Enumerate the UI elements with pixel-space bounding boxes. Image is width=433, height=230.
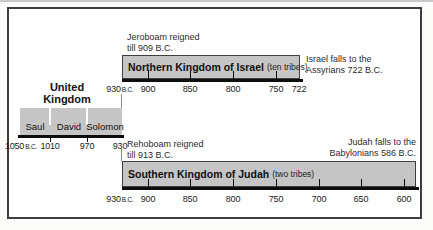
israel-falls-line2: Assyrians 722 B.C. [306, 65, 383, 76]
timeline-figure: Jeroboam reigned till 909 B.C. Northern … [0, 0, 433, 230]
axis-value: 722 [292, 84, 306, 94]
judah-falls-note: Judah falls to the Babylonians 586 B.C. [295, 137, 416, 158]
axis-value: 700 [312, 194, 326, 204]
northern-kingdom-subtitle: (ten tribes) [267, 62, 308, 72]
southern-axis-label-900: 900 [130, 194, 166, 204]
southern-tick-850 [190, 179, 191, 187]
southern-kingdom-title: Southern Kingdom of Judah [128, 168, 269, 180]
southern-axis-line [122, 187, 419, 190]
northern-axis-line [122, 79, 303, 82]
southern-kingdom-bar: Southern Kingdom of Judah (two tribes) [122, 161, 416, 187]
uk-axis-label-970: 970 [69, 141, 105, 151]
southern-axis-label-750: 750 [258, 194, 294, 204]
axis-value: 970 [80, 141, 94, 151]
southern-tick-800 [233, 179, 234, 187]
judah-falls-line2: Babylonians 586 B.C. [295, 148, 416, 159]
northern-axis-label-900: 900 [130, 84, 166, 94]
jeroboam-note-line1: Jeroboam reigned [127, 32, 200, 43]
judah-falls-line1: Judah falls to the [295, 137, 416, 148]
jeroboam-note-line2: till 909 B.C. [127, 43, 200, 54]
southern-axis-label-700: 700 [301, 194, 337, 204]
northern-axis-label-722: 722 [281, 84, 317, 94]
southern-axis-label-600: 600 [386, 194, 422, 204]
united-kingdom-title: United Kingdom [22, 81, 112, 105]
southern-tick-750 [276, 179, 277, 187]
axis-value: 1050 [5, 141, 24, 151]
southern-axis-label-850: 850 [172, 194, 208, 204]
axis-value: 650 [354, 194, 368, 204]
northern-axis-label-800: 800 [215, 84, 251, 94]
southern-kingdom-subtitle: (two tribes) [272, 169, 314, 179]
axis-value: 800 [226, 84, 240, 94]
united-kingdom-title-line2: Kingdom [22, 93, 112, 105]
saul-segment: Saul [20, 108, 50, 135]
northern-tick-850 [190, 71, 191, 79]
northern-tick-900 [148, 71, 149, 79]
southern-tick-600 [404, 179, 405, 187]
israel-falls-note: Israel falls to the Assyrians 722 B.C. [306, 54, 383, 75]
united-kingdom-bar: Saul David Solomon [20, 108, 122, 135]
northern-axis-label-850: 850 [172, 84, 208, 94]
southern-axis-label-650: 650 [343, 194, 379, 204]
connector-930-lower [121, 149, 122, 161]
rehoboam-note-line2: till 913 B.C. [127, 150, 204, 161]
david-segment: David [51, 108, 87, 135]
page-top-edge [0, 0, 433, 2]
axis-value: 1010 [40, 141, 59, 151]
southern-axis-label-800: 800 [215, 194, 251, 204]
jeroboam-note: Jeroboam reigned till 909 B.C. [127, 32, 200, 53]
axis-value: 930 [106, 194, 120, 204]
northern-tick-800 [233, 71, 234, 79]
southern-tick-650 [361, 179, 362, 187]
rehoboam-note-line1: Rehoboam reigned [127, 139, 204, 150]
southern-tick-900 [148, 179, 149, 187]
axis-value: 930 [113, 141, 127, 151]
southern-tick-700 [319, 179, 320, 187]
northern-tick-750 [276, 71, 277, 79]
axis-value: 850 [183, 84, 197, 94]
rehoboam-note: Rehoboam reigned till 913 B.C. [127, 139, 204, 160]
uk-axis-label-1010: 1010 [32, 141, 68, 151]
axis-value: 750 [269, 194, 283, 204]
axis-value: 600 [397, 194, 411, 204]
united-kingdom-axis-line [18, 135, 124, 138]
united-kingdom-title-line1: United [22, 81, 112, 93]
connector-930-upper [121, 94, 122, 108]
solomon-segment: Solomon [88, 108, 122, 135]
axis-value: 850 [183, 194, 197, 204]
axis-value: 900 [141, 194, 155, 204]
axis-value: 800 [226, 194, 240, 204]
israel-falls-line1: Israel falls to the [306, 54, 383, 65]
axis-value: 900 [141, 84, 155, 94]
